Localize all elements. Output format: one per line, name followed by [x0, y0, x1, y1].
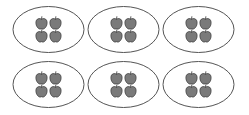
apple-icon: [186, 71, 197, 84]
apple-icon: [36, 29, 47, 42]
apple-icon: [200, 84, 211, 97]
apple-icon: [111, 84, 122, 97]
apple-groups-diagram: [0, 0, 249, 115]
group-oval: [88, 62, 159, 108]
group-oval: [163, 7, 234, 53]
group-oval: [163, 62, 234, 108]
apple-group: [163, 7, 234, 53]
apple-icon: [50, 84, 61, 97]
apple-icon: [125, 71, 136, 84]
apple-icon: [36, 71, 47, 84]
apple-icon: [186, 84, 197, 97]
apple-group: [88, 7, 159, 53]
apple-icon: [111, 16, 122, 29]
apple-icon: [186, 16, 197, 29]
apple-icon: [36, 16, 47, 29]
apple-icon: [50, 29, 61, 42]
apple-icon: [111, 29, 122, 42]
apple-icon: [50, 71, 61, 84]
apple-icon: [200, 16, 211, 29]
apple-icon: [111, 71, 122, 84]
apple-icon: [200, 29, 211, 42]
apple-icon: [125, 16, 136, 29]
apple-group: [13, 7, 84, 53]
apple-icon: [50, 16, 61, 29]
group-oval: [88, 7, 159, 53]
apple-group: [163, 62, 234, 108]
group-oval: [13, 62, 84, 108]
apple-icon: [186, 29, 197, 42]
group-oval: [13, 7, 84, 53]
apple-icon: [125, 29, 136, 42]
apple-group: [13, 62, 84, 108]
apple-icon: [200, 71, 211, 84]
apple-icon: [125, 84, 136, 97]
apple-icon: [36, 84, 47, 97]
apple-group: [88, 62, 159, 108]
